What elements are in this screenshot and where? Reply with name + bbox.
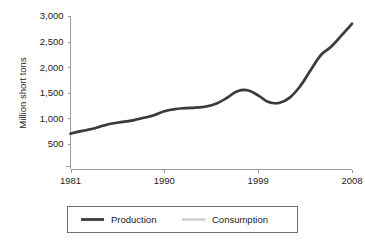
y-tick-label: 500 (48, 138, 64, 149)
series-line-consumption (71, 25, 353, 134)
x-tick-label: 1999 (248, 175, 269, 186)
y-tick-label: 3,000 (40, 10, 64, 21)
x-axis-ticks: 1981199019992008 (60, 170, 363, 186)
series-group (71, 24, 353, 135)
y-axis-ticks: 5001,0001,5002,0002,5003,000 (40, 10, 71, 166)
line-chart: 5001,0001,5002,0002,5003,000 19811990199… (0, 0, 365, 242)
x-tick-label: 1981 (60, 175, 81, 186)
x-tick-label: 2008 (341, 175, 362, 186)
y-tick-label: 2,500 (40, 36, 64, 47)
legend-label-production: Production (111, 214, 156, 225)
legend-label-consumption: Consumption (212, 214, 268, 225)
legend: Production Consumption (68, 207, 298, 233)
y-tick-label: 2,000 (40, 62, 64, 73)
series-line-production (71, 24, 353, 134)
x-tick-label: 1990 (154, 175, 175, 186)
chart-container: 5001,0001,5002,0002,5003,000 19811990199… (0, 0, 365, 242)
y-tick-label: 1,000 (40, 113, 64, 124)
y-tick-label: 1,500 (40, 87, 64, 98)
y-axis-title: Million short tons (17, 57, 28, 129)
axes-group (71, 16, 353, 170)
